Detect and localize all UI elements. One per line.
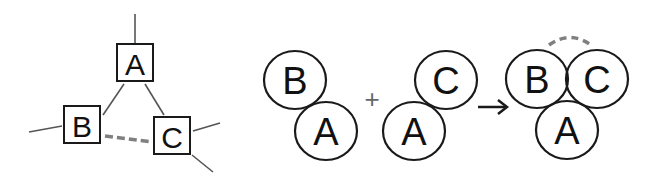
circle-c-label: C <box>432 60 459 102</box>
circle-group-b-a: B A <box>264 51 357 160</box>
circle-a-label: A <box>313 111 339 153</box>
edge-b-c-dashed <box>105 136 152 142</box>
circle-b-label: B <box>282 60 307 102</box>
circle-a-label: A <box>401 111 427 153</box>
diagram-canvas: A B C B A + C A B C <box>0 0 656 186</box>
circle-c-label: C <box>583 59 610 101</box>
left-network: A B C <box>29 14 220 172</box>
stub-line-c-bottom <box>192 155 213 172</box>
edge-a-b <box>103 84 124 115</box>
edge-a-c <box>145 84 164 115</box>
stub-line-c-right <box>193 123 220 131</box>
stub-line-b-left <box>29 126 62 132</box>
circle-group-result: B C A <box>506 38 628 160</box>
node-b: B <box>64 106 100 143</box>
node-a-label: A <box>125 48 145 81</box>
circle-b-label: B <box>524 59 549 101</box>
node-b-label: B <box>72 110 92 143</box>
plus-operator: + <box>364 84 379 114</box>
circle-group-c-a: C A <box>383 51 477 160</box>
dashed-arc-b-c <box>549 38 591 46</box>
arrow-right-icon <box>478 100 507 114</box>
node-a: A <box>117 44 153 81</box>
circle-a-label: A <box>554 110 580 152</box>
node-c: C <box>154 117 190 154</box>
node-c-label: C <box>161 121 183 154</box>
